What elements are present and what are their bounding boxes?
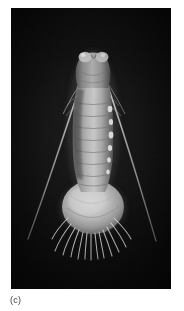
- eye-lobe-left: [79, 52, 92, 62]
- figure-root: (c): [0, 0, 184, 311]
- photomicrograph-panel: [11, 8, 171, 289]
- specimen-illustration: [11, 8, 171, 289]
- abdomen-segments: [73, 86, 114, 192]
- figure-caption: (c): [10, 294, 21, 306]
- head: [76, 52, 111, 88]
